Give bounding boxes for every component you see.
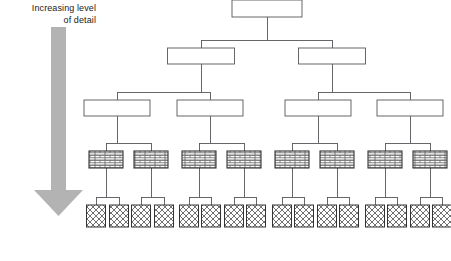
tree-node-brick[interactable] <box>89 151 447 168</box>
tree-node-level2[interactable] <box>168 48 366 64</box>
tree-node-crosshatch[interactable] <box>87 205 451 227</box>
increasing-detail-arrow <box>34 27 83 216</box>
diagram-canvas: Increasing level of detail <box>0 0 451 261</box>
tree-node-level3[interactable] <box>84 100 443 116</box>
tree-node-root[interactable] <box>232 0 302 17</box>
tree-diagram-svg <box>0 0 451 261</box>
